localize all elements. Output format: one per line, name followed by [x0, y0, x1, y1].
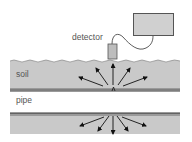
pipe-wall-lower	[10, 112, 180, 116]
pipe-label: pipe	[16, 96, 32, 105]
detector-sensor	[108, 44, 117, 59]
detector-cable	[112, 34, 153, 49]
detector-label: detector	[72, 33, 103, 42]
display-unit	[134, 14, 174, 36]
soil-layer	[10, 60, 180, 88]
soil-label: soil	[16, 70, 29, 79]
soil-layer-lower	[10, 116, 180, 134]
